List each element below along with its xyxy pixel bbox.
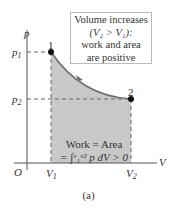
point-1-label: 1 xyxy=(48,40,54,51)
x-axis-label: V xyxy=(159,157,166,168)
v2-label: V2 xyxy=(126,168,137,182)
y-axis-label: p xyxy=(24,28,30,39)
work-area-text: Work = Area = ∫ᵛ₁ᵛ² p dV > 0 xyxy=(58,138,130,164)
point-2-label: 2 xyxy=(128,87,134,98)
callout-line-4: are positive xyxy=(71,52,151,65)
work-area-line-1: Work = Area xyxy=(58,138,130,151)
callout-line-1: Volume increases xyxy=(71,14,151,27)
p2-label: p2 xyxy=(12,94,22,108)
callout-line-2: (V₂ > V₁): xyxy=(71,27,151,40)
p1-label: p1 xyxy=(12,47,22,61)
callout-box: Volume increases (V₂ > V₁): work and are… xyxy=(70,12,152,64)
v1-label: V1 xyxy=(46,168,57,182)
origin-label: O xyxy=(14,167,22,178)
work-integral: = ∫ᵛ₁ᵛ² p dV > 0 xyxy=(58,151,130,164)
callout-line-3: work and area xyxy=(71,39,151,52)
figure-caption: (a) xyxy=(0,189,177,201)
